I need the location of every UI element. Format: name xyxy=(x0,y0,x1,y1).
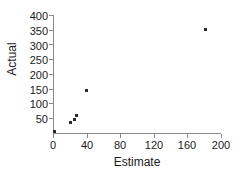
data-point xyxy=(73,118,76,121)
scatter-points-layer xyxy=(0,0,236,177)
data-point xyxy=(204,28,207,31)
data-point xyxy=(85,89,88,92)
data-point xyxy=(75,114,78,117)
data-point xyxy=(69,121,72,124)
scatter-chart-figure: Actual Estimate 400 350 300 250 200 150 … xyxy=(0,0,236,177)
data-point xyxy=(53,130,56,133)
